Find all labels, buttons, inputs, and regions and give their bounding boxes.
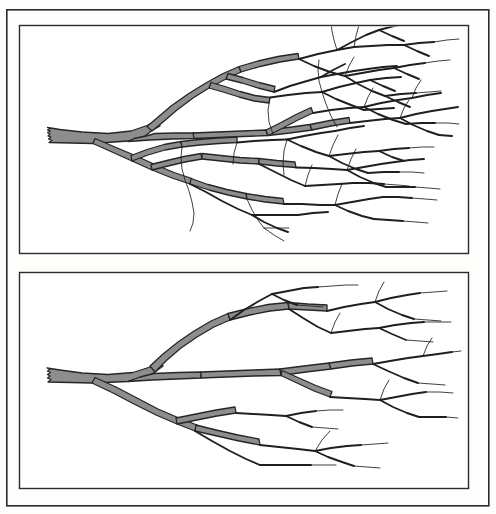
figure-root (0, 0, 496, 514)
panel-bottom (20, 273, 469, 489)
branching-figure-svg (0, 0, 496, 514)
panel-top (20, 17, 469, 254)
